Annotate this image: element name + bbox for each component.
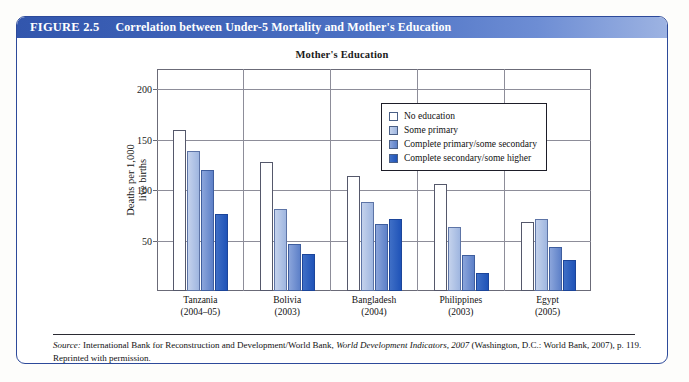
bar <box>535 219 548 291</box>
bar <box>448 227 461 291</box>
bar <box>201 170 214 291</box>
legend-label: Complete primary/some secondary <box>404 139 537 149</box>
legend-swatch-some-primary <box>389 126 398 135</box>
legend-item: Complete secondary/some higher <box>389 151 537 165</box>
y-tick-label: 100 <box>137 185 152 196</box>
y-tick-label: 150 <box>137 134 152 145</box>
bar <box>173 130 186 291</box>
chart-title: Mother's Education <box>17 49 667 60</box>
x-axis-label: Tanzania(2004–05) <box>157 295 244 318</box>
legend-item: No education <box>389 109 537 123</box>
bar <box>389 219 402 291</box>
x-axis-label: Egypt(2005) <box>504 295 591 318</box>
source-text-1: International Bank for Reconstruction an… <box>81 340 336 350</box>
source-label: Source: <box>53 340 81 350</box>
bar <box>375 224 388 291</box>
bar <box>187 151 200 291</box>
bar <box>434 184 447 291</box>
y-tick-label: 200 <box>137 84 152 95</box>
bar-group <box>244 69 331 291</box>
legend-swatch-no-education <box>389 112 398 121</box>
bar <box>563 260 576 291</box>
legend-label: No education <box>404 111 455 121</box>
figure-number: FIGURE 2.5 <box>30 20 99 35</box>
bar <box>215 214 228 291</box>
bar <box>549 247 562 291</box>
legend-swatch-complete-primary <box>389 140 398 149</box>
legend-item: Complete primary/some secondary <box>389 137 537 151</box>
figure-box: FIGURE 2.5 Correlation between Under-5 M… <box>16 16 668 364</box>
legend-item: Some primary <box>389 123 537 137</box>
y-axis-label: Deaths per 1,000live births <box>124 69 150 291</box>
source-note: Source: International Bank for Reconstru… <box>53 339 643 364</box>
source-divider <box>53 334 635 335</box>
legend-swatch-complete-secondary <box>389 154 398 163</box>
y-tick-label: 50 <box>142 235 152 246</box>
x-axis-label: Bolivia(2003) <box>244 295 331 318</box>
bar-group <box>157 69 244 291</box>
legend-label: Some primary <box>404 125 458 135</box>
bar <box>302 254 315 291</box>
page-background: FIGURE 2.5 Correlation between Under-5 M… <box>0 0 689 382</box>
bar <box>476 273 489 291</box>
bar <box>347 176 360 291</box>
figure-title: Correlation between Under-5 Mortality an… <box>115 20 451 35</box>
x-axis-category-labels: Tanzania(2004–05)Bolivia(2003)Bangladesh… <box>157 295 591 318</box>
x-axis-label: Bangladesh(2004) <box>331 295 418 318</box>
figure-header-bar: FIGURE 2.5 Correlation between Under-5 M… <box>17 17 667 38</box>
source-publication-title: World Development Indicators, 2007 <box>336 340 469 350</box>
chart-legend: No education Some primary Complete prima… <box>381 103 547 171</box>
bar <box>288 244 301 291</box>
bar <box>361 202 374 291</box>
bar <box>462 255 475 291</box>
bar <box>274 209 287 291</box>
x-axis-label: Philippines(2003) <box>417 295 504 318</box>
bar <box>260 162 273 291</box>
bar <box>521 222 534 291</box>
legend-label: Complete secondary/some higher <box>404 153 531 163</box>
